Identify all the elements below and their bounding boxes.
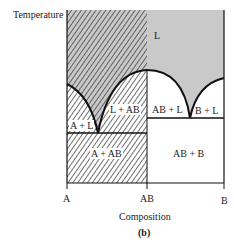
region-label-a-plus-ab: A + AB [90,148,123,159]
x-tick-label-b: B [221,195,228,206]
figure-caption: (b) [138,227,150,238]
region-label-b-plus-l: B + L [195,105,218,116]
region-label-ab-plus-l: AB + L [152,104,183,115]
region-label-l-plus-ab: L + AB [109,104,141,115]
x-tick-label-ab: AB [140,193,154,204]
region-label-ab-plus-b: AB + B [173,148,204,159]
x-axis-label: Composition [119,211,171,222]
region-label-liquid: L [154,30,160,41]
y-axis-label: Temperature [13,9,63,20]
region-label-a-plus-l: A + L [69,120,94,131]
x-tick-label-a: A [63,193,70,204]
phase-diagram [0,0,234,242]
